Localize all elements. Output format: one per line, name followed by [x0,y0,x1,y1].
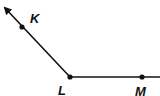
point-m-dot [139,74,144,79]
point-k-dot [19,24,24,29]
label-m: M [135,84,147,96]
angle-diagram: K L M [0,0,160,96]
label-k: K [30,11,41,26]
point-l-dot [67,74,72,79]
label-l: L [58,83,66,96]
